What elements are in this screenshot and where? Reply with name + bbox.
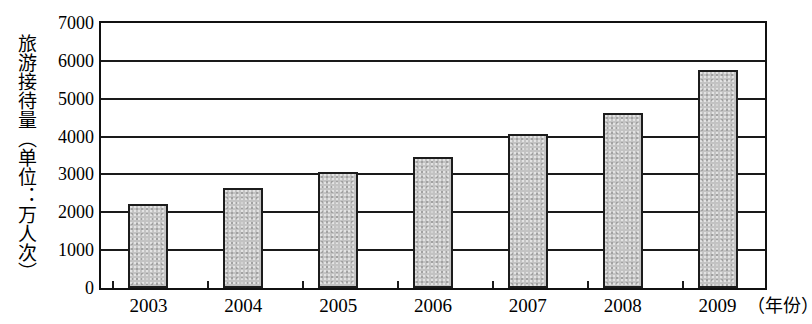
x-axis-tick-mark [397,281,399,288]
bar [128,204,168,288]
x-axis-tick-mark [682,281,684,288]
y-axis-tick-label: 1000 [32,241,94,259]
x-axis-tick-label: 2005 [298,293,378,319]
x-axis-tick-mark [112,281,114,288]
y-axis-tick-label: 0 [32,279,94,297]
y-axis-tick-label: 4000 [32,128,94,146]
y-axis-tick-label: 7000 [32,14,94,32]
bar [508,134,548,288]
gridline [101,98,765,100]
bar [223,188,263,288]
y-axis-tick-label: 3000 [32,165,94,183]
plot-inner [101,23,765,288]
x-axis-tick-label: 2006 [393,293,473,319]
bar [698,70,738,288]
y-axis-title: 旅游接待量（单位：万人次） [2,2,36,312]
x-axis-tick-mark [302,281,304,288]
y-axis-tick-label-group: 01000200030004000500060007000 [32,0,94,324]
gridline [101,60,765,62]
y-axis-tick-label: 5000 [32,90,94,108]
plot-area [99,21,767,290]
x-axis-tick-label: 2007 [488,293,568,319]
y-axis-tick-label: 2000 [32,203,94,221]
x-axis-tick-mark [492,281,494,288]
x-axis-tick-mark [587,281,589,288]
x-axis-tick-label-group: （年份） 2003200420052006200720082009 [99,293,796,324]
x-axis-tick-label: 2003 [108,293,188,319]
x-axis-tick-label: 2009 [678,293,758,319]
y-axis-tick-label: 6000 [32,52,94,70]
bar [318,172,358,288]
x-axis-tick-label: 2004 [203,293,283,319]
gridline [101,136,765,138]
bar [603,113,643,288]
x-axis-tick-mark [207,281,209,288]
bar [413,157,453,288]
x-axis-tick-label: 2008 [583,293,663,319]
